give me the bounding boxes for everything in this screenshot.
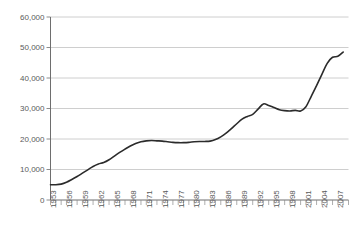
xtick-label-1995: 1995: [272, 190, 281, 208]
series-line-series-1: [51, 52, 344, 185]
xtick-label-1974: 1974: [161, 190, 170, 208]
ytick-label-20000: 20,000: [20, 135, 45, 144]
xtick-label-1983: 1983: [208, 190, 217, 208]
xtick-label-2007: 2007: [336, 190, 345, 208]
xtick-label-1992: 1992: [256, 190, 265, 208]
xtick-label-1986: 1986: [224, 190, 233, 208]
ytick-label-30000: 30,000: [20, 104, 45, 113]
ytick-label-0: 0: [40, 196, 45, 205]
xtick-label-1977: 1977: [177, 190, 186, 208]
line-chart: 010,00020,00030,00040,00050,00060,000195…: [0, 0, 362, 252]
ytick-label-40000: 40,000: [20, 74, 45, 83]
xtick-label-1989: 1989: [240, 190, 249, 208]
xtick-label-2004: 2004: [320, 190, 329, 208]
xtick-label-1965: 1965: [113, 190, 122, 208]
xtick-label-1998: 1998: [288, 190, 297, 208]
xtick-label-1971: 1971: [145, 190, 154, 208]
xtick-label-1953: 1953: [49, 190, 58, 208]
chart-canvas: 010,00020,00030,00040,00050,00060,000195…: [0, 0, 362, 252]
xtick-label-1962: 1962: [97, 190, 106, 208]
ytick-label-60000: 60,000: [20, 13, 45, 22]
xtick-label-1980: 1980: [192, 190, 201, 208]
ytick-label-10000: 10,000: [20, 165, 45, 174]
ytick-label-50000: 50,000: [20, 43, 45, 52]
xtick-label-1968: 1968: [129, 190, 138, 208]
xtick-label-2001: 2001: [304, 190, 313, 208]
xtick-label-1959: 1959: [81, 190, 90, 208]
xtick-label-1956: 1956: [65, 190, 74, 208]
